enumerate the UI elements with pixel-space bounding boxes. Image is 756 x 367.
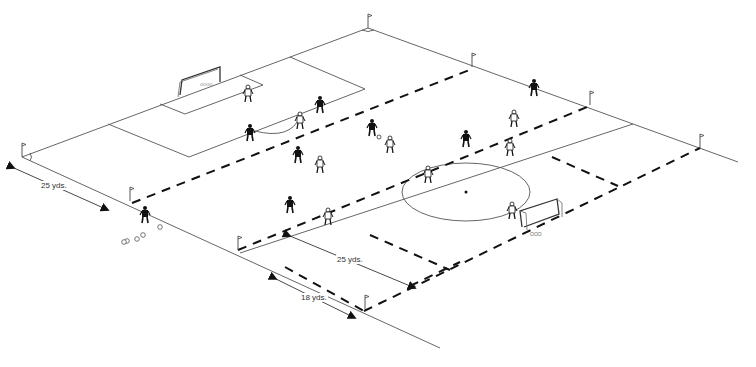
dimension-label-bottom: 18 yds.: [300, 293, 328, 302]
grid-dashed-lines: [132, 69, 700, 311]
dimension-label-mid: 25 yds.: [336, 255, 364, 264]
cone-flag: [700, 134, 704, 148]
svg-text:OOO: OOO: [530, 231, 542, 237]
field-drawing: OOOO OOO: [0, 0, 756, 367]
goal-far-left: OOOO: [178, 67, 220, 97]
soccer-drill-diagram: OOOO OOO: [0, 0, 756, 367]
dimension-label-left: 25 yds.: [40, 181, 68, 190]
balls: [122, 135, 381, 244]
cone-flag: [365, 295, 369, 309]
cone-flag: [590, 91, 594, 105]
cone-flag: [472, 53, 476, 67]
penalty-area: [108, 57, 365, 157]
field-boundary: [22, 28, 738, 348]
center-spot: [465, 191, 468, 194]
cone-flag: [130, 187, 134, 201]
corner-flag-left: [22, 143, 26, 157]
corner-flag-far: [368, 14, 372, 28]
svg-text:OOOO: OOOO: [200, 82, 212, 87]
flags: [22, 14, 704, 309]
dimension-arrows: [14, 168, 415, 318]
